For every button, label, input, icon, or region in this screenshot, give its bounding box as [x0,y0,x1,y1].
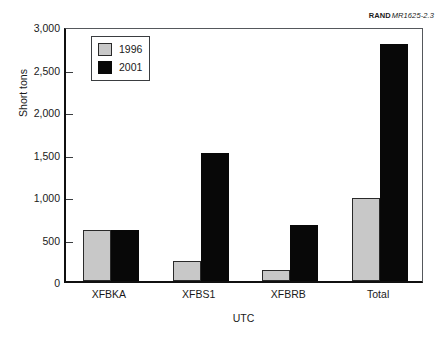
bar-xfbrb-2001 [290,225,318,281]
y-axis-tick-labels: 05001,0001,5002,0002,5003,000 [20,22,60,288]
x-axis-tick-label: XFBKA [64,288,154,301]
y-axis-tick-label: 2,000 [20,107,60,119]
bar-xfbka-2001 [111,230,139,281]
bar-total-1996 [352,198,380,281]
bar-xfbrb-1996 [262,270,290,281]
legend-label-2001: 2001 [119,61,142,74]
figure-credit-brand: RAND [369,11,391,20]
y-axis-tick-label: 3,000 [20,22,60,34]
x-axis-tick-label: Total [333,288,423,301]
chart-legend: 1996 2001 [91,36,150,81]
x-axis-title: UTC [64,312,423,324]
x-axis-tick-labels: XFBKAXFBS1XFBRBTotal [64,288,423,302]
y-axis-tick-label: 0 [20,277,60,289]
bar-group [173,29,229,281]
y-axis-tick-label: 2,500 [20,65,60,77]
x-axis-tick-label: XFBS1 [154,288,244,301]
legend-item-1996: 1996 [98,42,142,57]
bar-total-2001 [380,44,408,281]
legend-item-2001: 2001 [98,60,142,75]
figure-credit-code: MR1625-2.3 [392,11,434,20]
legend-label-1996: 1996 [119,43,142,56]
bar-group [262,29,318,281]
y-axis-tick-label: 500 [20,235,60,247]
bar-xfbs1-2001 [201,153,229,281]
y-axis-tick-label: 1,500 [20,150,60,162]
y-axis-tick-label: 1,000 [20,192,60,204]
x-axis-tick-label: XFBRB [244,288,334,301]
legend-swatch-1996 [98,43,112,56]
bar-group [352,29,408,281]
bar-xfbka-1996 [83,230,111,281]
bar-xfbs1-1996 [173,261,201,281]
figure-credit: RANDMR1625-2.3 [369,11,434,20]
legend-swatch-2001 [98,61,112,74]
